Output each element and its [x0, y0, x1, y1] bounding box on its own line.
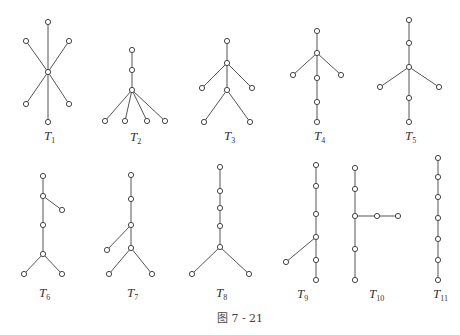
tree-label: T11: [433, 286, 448, 303]
tree-t3: T3: [199, 38, 254, 145]
tree-vertex: [374, 213, 379, 218]
tree-label: T4: [314, 128, 325, 145]
tree-vertex: [66, 101, 71, 106]
tree-vertex: [122, 118, 127, 123]
tree-vertex: [435, 257, 440, 262]
tree-vertex: [144, 118, 149, 123]
tree-edge: [105, 90, 132, 121]
tree-edge: [192, 247, 220, 274]
tree-vertex: [352, 213, 357, 218]
tree-vertex: [66, 38, 71, 43]
tree-edge: [409, 67, 439, 87]
tree-vertex: [406, 95, 411, 100]
tree-edge: [132, 90, 147, 121]
tree-edge: [227, 63, 252, 88]
tree-t5: T5: [377, 17, 441, 145]
tree-label-subscript: 8: [223, 293, 227, 302]
tree-vertex: [247, 119, 252, 124]
tree-vertex: [246, 271, 251, 276]
tree-label-subscript: 5: [412, 136, 416, 145]
tree-edge: [24, 254, 43, 274]
tree-vertex: [406, 64, 411, 69]
tree-vertex: [129, 47, 134, 52]
tree-edge: [286, 237, 316, 262]
tree-vertex: [40, 193, 45, 198]
tree-vertex: [23, 101, 28, 106]
tree-figure: T1T2T3T4T5T6T7T8T9T10T11 图 7 - 21: [0, 0, 460, 335]
tree-edge: [202, 63, 227, 88]
tree-vertex: [102, 118, 107, 123]
tree-label-subscript: 3: [231, 136, 235, 145]
tree-edge: [107, 225, 131, 250]
tree-vertex: [313, 162, 318, 167]
tree-t2: T2: [102, 47, 167, 146]
tree-vertex: [162, 118, 167, 123]
tree-vertex: [217, 223, 222, 228]
tree-label: T5: [405, 128, 416, 145]
tree-vertex: [40, 222, 45, 227]
tree-vertex: [128, 222, 133, 227]
tree-vertex: [338, 72, 343, 77]
tree-vertex: [436, 84, 441, 89]
tree-vertex: [406, 119, 411, 124]
tree-vertex: [406, 40, 411, 45]
tree-vertex: [435, 236, 440, 241]
tree-vertex: [23, 38, 28, 43]
tree-vertex: [106, 271, 111, 276]
tree-label: T3: [224, 128, 235, 145]
tree-label: T2: [130, 129, 141, 146]
tree-label-subscript: 9: [304, 294, 308, 303]
tree-vertex: [45, 119, 50, 124]
tree-t1: T1: [23, 19, 71, 145]
tree-edge: [204, 90, 227, 122]
tree-vertex: [104, 247, 109, 252]
tree-edge: [109, 248, 131, 274]
tree-vertex: [435, 277, 440, 282]
tree-vertex: [224, 38, 229, 43]
tree-vertex: [435, 215, 440, 220]
tree-vertex: [395, 213, 400, 218]
tree-edge: [26, 72, 48, 104]
tree-vertex: [199, 85, 204, 90]
tree-label: T10: [369, 286, 384, 303]
tree-edge: [132, 90, 165, 121]
tree-vertex: [352, 277, 357, 282]
tree-vertex: [290, 72, 295, 77]
tree-vertex: [435, 155, 440, 160]
tree-label-subscript: 6: [46, 293, 50, 302]
tree-vertex: [314, 99, 319, 104]
trees-layer: T1T2T3T4T5T6T7T8T9T10T11: [21, 17, 448, 303]
tree-vertex: [224, 60, 229, 65]
tree-edge: [43, 196, 62, 210]
tree-vertex: [283, 259, 288, 264]
tree-vertex: [149, 271, 154, 276]
tree-label-subscript: 1: [51, 136, 55, 145]
tree-vertex: [217, 188, 222, 193]
tree-edge: [48, 41, 69, 72]
tree-vertex: [435, 174, 440, 179]
tree-edge: [26, 41, 48, 72]
tree-vertex: [21, 271, 26, 276]
tree-t8: T8: [189, 164, 251, 302]
tree-edge: [227, 90, 250, 122]
tree-t6: T6: [21, 173, 64, 302]
tree-edge: [48, 72, 69, 104]
tree-vertex: [40, 173, 45, 178]
tree-vertex: [352, 165, 357, 170]
tree-vertex: [217, 164, 222, 169]
tree-vertex: [189, 271, 194, 276]
tree-vertex: [224, 87, 229, 92]
tree-vertex: [45, 69, 50, 74]
tree-edge: [220, 247, 249, 274]
tree-label-subscript: 11: [440, 294, 448, 303]
tree-vertex: [217, 244, 222, 249]
tree-vertex: [314, 75, 319, 80]
tree-vertex: [435, 194, 440, 199]
tree-edge: [293, 53, 317, 75]
tree-t10: T10: [352, 165, 400, 303]
tree-vertex: [128, 172, 133, 177]
tree-t9: T9: [283, 162, 318, 303]
tree-vertex: [352, 186, 357, 191]
tree-vertex: [313, 277, 318, 282]
tree-vertex: [313, 257, 318, 262]
